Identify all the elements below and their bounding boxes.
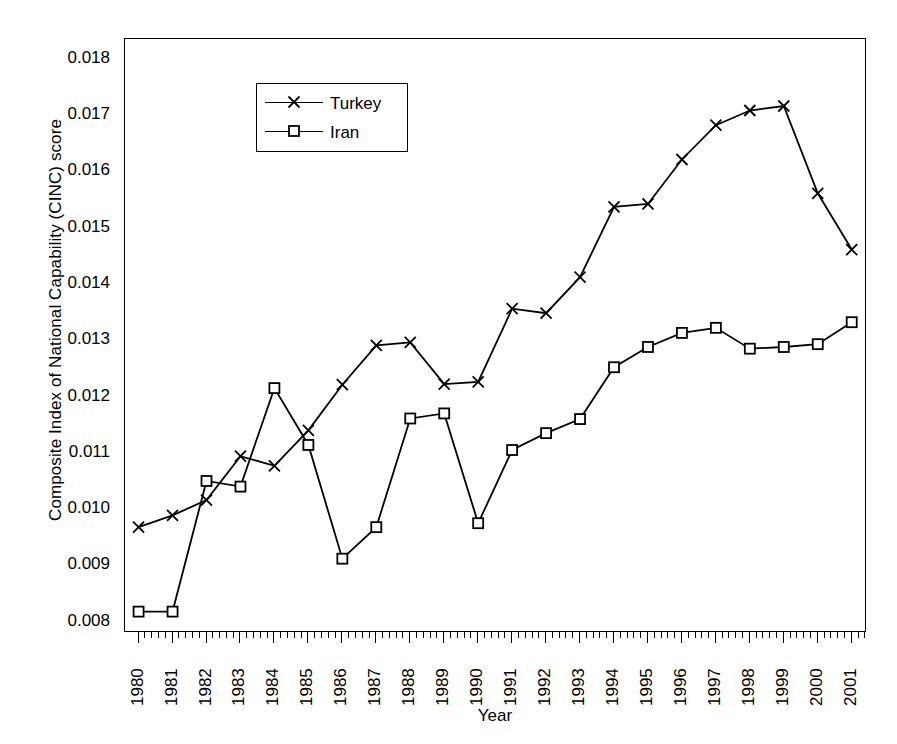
y-tick-label: 0.010 bbox=[24, 498, 110, 518]
x-tick-label: 1992 bbox=[535, 646, 555, 706]
x-minor-tick bbox=[844, 632, 845, 638]
x-minor-tick bbox=[246, 632, 247, 638]
x-tick-mark bbox=[172, 632, 173, 643]
x-tick-label: 1989 bbox=[433, 646, 453, 706]
x-minor-tick bbox=[335, 632, 336, 638]
square-marker bbox=[168, 607, 178, 617]
x-minor-tick bbox=[321, 632, 322, 638]
x-tick-label: 1982 bbox=[196, 646, 216, 706]
x-minor-tick bbox=[654, 632, 655, 638]
square-marker bbox=[289, 126, 299, 136]
legend-marker bbox=[284, 93, 304, 113]
x-tick-label: 1987 bbox=[365, 646, 385, 706]
x-minor-tick bbox=[226, 632, 227, 638]
x-tick-mark bbox=[375, 632, 376, 643]
square-marker bbox=[303, 440, 313, 450]
legend-marker bbox=[284, 122, 304, 142]
x-tick-label: 1993 bbox=[569, 646, 589, 706]
x-minor-tick bbox=[436, 632, 437, 638]
x-minor-tick bbox=[328, 632, 329, 638]
x-minor-tick bbox=[144, 632, 145, 638]
series-turkey bbox=[133, 101, 857, 533]
square-marker bbox=[541, 428, 551, 438]
cropped-caption-text bbox=[447, 0, 450, 1]
x-minor-tick bbox=[837, 632, 838, 638]
x-minor-tick bbox=[586, 632, 587, 638]
x-tick-mark bbox=[511, 632, 512, 643]
x-minor-tick bbox=[640, 632, 641, 638]
x-tick-mark bbox=[477, 632, 478, 643]
square-marker bbox=[439, 408, 449, 418]
x-minor-tick bbox=[178, 632, 179, 638]
x-tick-label: 2001 bbox=[841, 646, 861, 706]
y-tick-label: 0.015 bbox=[24, 217, 110, 237]
x-minor-tick bbox=[165, 632, 166, 638]
x-minor-tick bbox=[348, 632, 349, 638]
x-tick-mark bbox=[409, 632, 410, 643]
x-minor-tick bbox=[756, 632, 757, 638]
cross-marker bbox=[269, 460, 280, 471]
square-marker bbox=[711, 323, 721, 333]
x-minor-tick bbox=[212, 632, 213, 638]
cross-marker bbox=[133, 522, 144, 533]
x-minor-tick bbox=[267, 632, 268, 638]
x-minor-tick bbox=[362, 632, 363, 638]
x-minor-tick bbox=[620, 632, 621, 638]
x-minor-tick bbox=[382, 632, 383, 638]
cross-marker bbox=[167, 510, 178, 521]
cross-marker bbox=[575, 272, 586, 283]
x-minor-tick bbox=[369, 632, 370, 638]
x-minor-tick bbox=[301, 632, 302, 638]
x-minor-tick bbox=[538, 632, 539, 638]
y-tick-label: 0.013 bbox=[24, 329, 110, 349]
x-minor-tick bbox=[565, 632, 566, 638]
square-marker bbox=[371, 522, 381, 532]
x-minor-tick bbox=[287, 632, 288, 638]
x-minor-tick bbox=[294, 632, 295, 638]
x-tick-label: 1996 bbox=[671, 646, 691, 706]
square-marker bbox=[265, 122, 323, 142]
square-marker bbox=[813, 339, 823, 349]
x-minor-tick bbox=[233, 632, 234, 638]
x-tick-label: 1984 bbox=[263, 646, 283, 706]
cross-marker bbox=[812, 188, 823, 199]
x-minor-tick bbox=[450, 632, 451, 638]
x-tick-mark bbox=[307, 632, 308, 643]
x-minor-tick bbox=[457, 632, 458, 638]
cross-marker bbox=[265, 93, 323, 113]
x-minor-tick bbox=[796, 632, 797, 638]
square-marker bbox=[473, 518, 483, 528]
y-tick-label: 0.017 bbox=[24, 104, 110, 124]
x-minor-tick bbox=[769, 632, 770, 638]
x-minor-tick bbox=[667, 632, 668, 638]
x-tick-mark bbox=[443, 632, 444, 643]
cropped-caption-strip bbox=[0, 0, 897, 10]
x-tick-mark bbox=[851, 632, 852, 643]
x-tick-mark bbox=[341, 632, 342, 643]
x-minor-tick bbox=[192, 632, 193, 638]
cross-marker bbox=[846, 244, 857, 255]
x-minor-tick bbox=[402, 632, 403, 638]
x-minor-tick bbox=[504, 632, 505, 638]
y-tick-label: 0.008 bbox=[24, 611, 110, 631]
cross-marker bbox=[676, 154, 687, 165]
x-minor-tick bbox=[158, 632, 159, 638]
y-tick-label: 0.014 bbox=[24, 273, 110, 293]
square-marker bbox=[745, 344, 755, 354]
x-tick-label: 1986 bbox=[331, 646, 351, 706]
x-tick-mark bbox=[579, 632, 580, 643]
x-minor-tick bbox=[742, 632, 743, 638]
x-minor-tick bbox=[518, 632, 519, 638]
x-tick-label: 1995 bbox=[637, 646, 657, 706]
x-minor-tick bbox=[572, 632, 573, 638]
x-minor-tick bbox=[728, 632, 729, 638]
square-marker bbox=[202, 476, 212, 486]
x-minor-tick bbox=[280, 632, 281, 638]
x-minor-tick bbox=[416, 632, 417, 638]
x-minor-tick bbox=[389, 632, 390, 638]
square-marker bbox=[507, 445, 517, 455]
x-minor-tick bbox=[776, 632, 777, 638]
x-minor-tick bbox=[260, 632, 261, 638]
x-minor-tick bbox=[470, 632, 471, 638]
x-tick-label: 1998 bbox=[739, 646, 759, 706]
